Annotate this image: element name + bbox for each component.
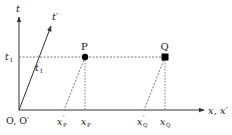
- x-prime-p-label: x ′ P: [57, 114, 67, 128]
- svg-text:t: t: [5, 51, 9, 62]
- point-p-marker: [82, 54, 88, 60]
- t-prime-axis-label: t′: [52, 11, 59, 22]
- p-slanted-projection: [64, 57, 85, 110]
- svg-text:1: 1: [10, 56, 14, 63]
- x-q-label: x Q: [160, 116, 171, 128]
- svg-text:′: ′: [143, 114, 145, 122]
- t-axis-label: t: [16, 3, 21, 14]
- svg-text:Q: Q: [143, 122, 148, 128]
- x-p-label: x P: [81, 116, 91, 128]
- svg-text:Q: Q: [166, 122, 171, 128]
- x-prime-q-label: x ′ Q: [137, 114, 148, 128]
- svg-text:1: 1: [40, 67, 44, 74]
- x-axis-label: x, x′: [208, 105, 229, 116]
- svg-text:P: P: [63, 122, 67, 128]
- point-q-marker: [162, 54, 169, 61]
- origin-label: O, O′: [6, 115, 29, 126]
- t1-label: t 1: [5, 51, 13, 63]
- t1-prime-label: t ′ 1: [35, 61, 43, 74]
- point-p-label: P: [81, 41, 88, 52]
- svg-text:P: P: [87, 122, 91, 128]
- point-q-label: Q: [161, 41, 169, 52]
- q-slanted-projection: [144, 57, 165, 110]
- spacetime-diagram: t t′ x, x′ O, O′ t 1 t ′ 1 P Q x ′ P x P…: [0, 0, 232, 135]
- svg-text:′: ′: [63, 114, 65, 122]
